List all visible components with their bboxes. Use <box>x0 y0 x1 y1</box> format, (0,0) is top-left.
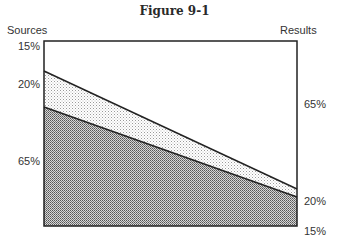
bottom-band <box>44 107 297 226</box>
stacked-area-diagram <box>0 0 349 238</box>
